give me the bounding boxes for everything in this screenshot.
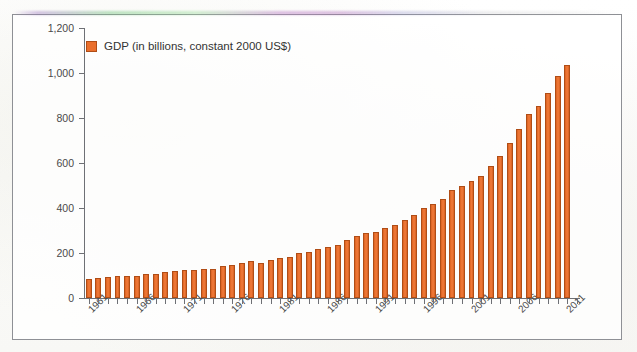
chart-legend: GDP (in billions, constant 2000 US$) [86, 40, 291, 52]
legend-label: GDP (in billions, constant 2000 US$) [104, 40, 291, 52]
chart-outer-frame [12, 14, 622, 340]
legend-color-swatch [86, 41, 97, 52]
chart-page: GDP (in billions, constant 2000 US$) 020… [0, 0, 637, 352]
